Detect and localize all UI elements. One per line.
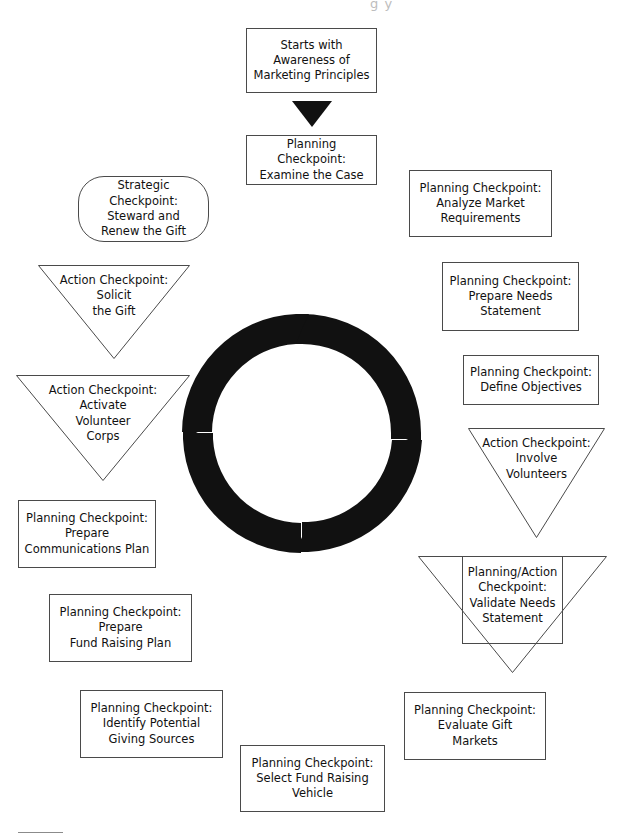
node-analyze-market-requirements[interactable]: Planning Checkpoint: Analyze Market Requ… <box>409 170 552 237</box>
node-validate-needs-statement[interactable]: Planning/Action Checkpoint: Validate Nee… <box>418 556 607 673</box>
node-label: Planning Checkpoint: Analyze Market Requ… <box>416 181 546 227</box>
node-label: Planning Checkpoint: Prepare Fund Raisin… <box>56 605 186 651</box>
cycle-segment-3 <box>183 433 301 553</box>
cycle-segment-2 <box>302 440 422 552</box>
node-label: Starts with Awareness of Marketing Princ… <box>250 38 374 84</box>
node-label: Planning Checkpoint: Select Fund Raising… <box>248 756 378 802</box>
node-define-objectives[interactable]: Planning Checkpoint: Define Objectives <box>463 355 599 405</box>
diagram-canvas: g y <box>0 0 627 838</box>
node-prepare-communications-plan[interactable]: Planning Checkpoint: Prepare Communicati… <box>18 500 156 568</box>
node-label: Planning Checkpoint: Define Objectives <box>466 365 596 396</box>
down-arrow-icon <box>292 101 332 127</box>
node-solicit-the-gift[interactable]: Action Checkpoint: Solicit the Gift <box>38 265 190 359</box>
cycle-segment-1 <box>302 314 421 439</box>
cropped-title-fragment: g y <box>370 0 393 11</box>
arrow-awareness-to-examine <box>292 101 332 127</box>
node-steward-and-renew-the-gift[interactable]: Strategic Checkpoint: Steward and Renew … <box>78 176 209 242</box>
node-label: Action Checkpoint: Involve Volunteers <box>468 436 605 482</box>
node-label: Planning Checkpoint: Prepare Communicati… <box>21 511 154 557</box>
node-starts-with-awareness[interactable]: Starts with Awareness of Marketing Princ… <box>246 28 377 93</box>
central-cycle-diagram <box>175 306 429 560</box>
node-label: Action Checkpoint: Solicit the Gift <box>38 273 190 319</box>
node-label: Planning/Action Checkpoint: Validate Nee… <box>418 565 607 626</box>
node-label: Strategic Checkpoint: Steward and Renew … <box>79 178 208 239</box>
node-examine-the-case[interactable]: Planning Checkpoint: Examine the Case <box>246 135 377 185</box>
node-label: Action Checkpoint: Activate Volunteer Co… <box>16 383 190 444</box>
cycle-svg <box>175 306 429 560</box>
node-identify-potential-giving-sources[interactable]: Planning Checkpoint: Identify Potential … <box>80 690 223 758</box>
node-prepare-needs-statement[interactable]: Planning Checkpoint: Prepare Needs State… <box>442 262 579 331</box>
cycle-arrow-segments <box>182 314 422 553</box>
footer-rule <box>18 832 63 833</box>
node-label: Planning Checkpoint: Identify Potential … <box>87 701 217 747</box>
node-evaluate-gift-markets[interactable]: Planning Checkpoint: Evaluate Gift Marke… <box>404 692 546 760</box>
node-select-fund-raising-vehicle[interactable]: Planning Checkpoint: Select Fund Raising… <box>240 745 385 812</box>
node-label: Planning Checkpoint: Evaluate Gift Marke… <box>410 703 540 749</box>
node-involve-volunteers[interactable]: Action Checkpoint: Involve Volunteers <box>468 428 605 538</box>
cycle-segment-4 <box>182 314 302 432</box>
node-label: Planning Checkpoint: Prepare Needs State… <box>446 274 576 320</box>
node-prepare-fund-raising-plan[interactable]: Planning Checkpoint: Prepare Fund Raisin… <box>49 594 192 662</box>
node-label: Planning Checkpoint: Examine the Case <box>247 137 376 183</box>
node-activate-volunteer-corps[interactable]: Action Checkpoint: Activate Volunteer Co… <box>16 375 190 481</box>
